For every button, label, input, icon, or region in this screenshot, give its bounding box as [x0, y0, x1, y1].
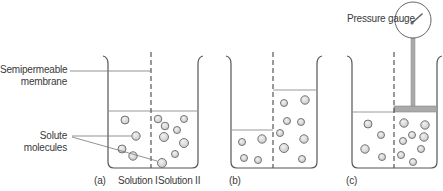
panel-a-label: (a): [94, 175, 106, 187]
solute-leader-2: [72, 137, 157, 161]
solution-2-label: Solution II: [158, 175, 200, 187]
gauge-label: Pressure gauge: [347, 13, 415, 25]
piston-rod: [411, 38, 415, 106]
solute-label: Solute molecules: [0, 130, 67, 154]
piston: [394, 106, 437, 112]
beaker-c: [347, 38, 442, 168]
membrane-label: Semipermeable membrane: [0, 64, 67, 88]
osmosis-diagram: [0, 0, 443, 191]
solute-label-line1: Solute: [0, 130, 67, 142]
molecules-c: [361, 119, 429, 166]
membrane-label-line1: Semipermeable: [0, 64, 67, 76]
panel-c-label: (c): [346, 175, 357, 187]
solution-1-label: Solution I: [118, 175, 158, 187]
beaker-a: [103, 52, 203, 168]
panel-b-label: (b): [229, 175, 241, 187]
solute-label-line2: molecules: [0, 142, 67, 154]
beaker-b: [226, 52, 322, 168]
membrane-label-line2: membrane: [0, 76, 67, 88]
